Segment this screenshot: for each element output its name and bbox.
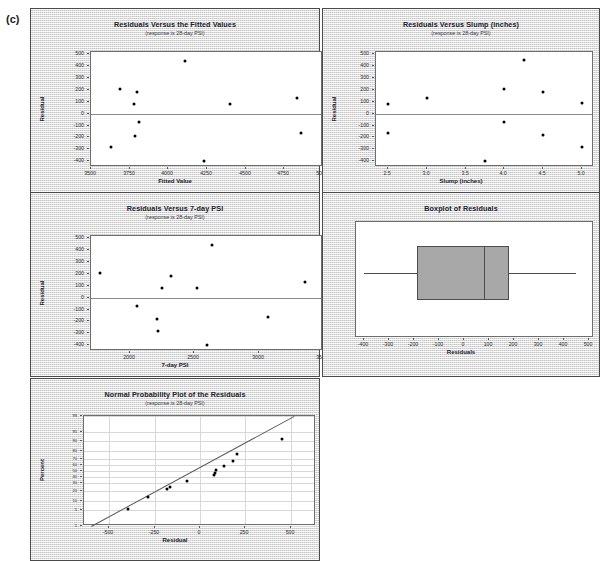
gridline-horizontal [84, 441, 314, 442]
x-axis-tick-label: 3.0 [422, 170, 429, 176]
y-axis-tick [80, 431, 82, 432]
x-axis-tick-label: 4.0 [499, 170, 506, 176]
x-axis-tick-label: -250 [149, 529, 159, 535]
data-point [581, 145, 584, 148]
x-axis-title: Fitted Value [35, 178, 315, 184]
chart-title-psi7: Residuals Versus 7-day PSI [35, 204, 315, 213]
y-axis-tick-label: -300 [359, 145, 369, 151]
x-axis-tick [387, 167, 388, 169]
x-axis-tick-label: 4.5 [538, 170, 545, 176]
data-point [303, 281, 306, 284]
y-axis-tick [372, 160, 374, 161]
plot-area-fitted [90, 51, 322, 166]
data-point [211, 243, 214, 246]
y-axis-tick [80, 525, 82, 526]
data-point [229, 102, 232, 105]
data-point [300, 131, 303, 134]
y-axis-tick [87, 136, 89, 137]
y-axis-tick [87, 237, 89, 238]
y-axis-tick-label: 30 [72, 480, 77, 485]
chart-subtitle-normal: (response is 28-day PSI) [35, 400, 315, 406]
y-axis-tick-label: -100 [74, 122, 84, 128]
x-axis-title: Residuals [327, 349, 595, 355]
y-axis-tick [87, 113, 89, 114]
data-point [425, 97, 428, 100]
y-axis-tick [87, 320, 89, 321]
x-axis-tick-label: 4250 [200, 170, 212, 176]
x-axis-tick [363, 338, 364, 340]
x-axis-title: 7-day PSI [35, 362, 315, 368]
y-axis-tick [87, 125, 89, 126]
chart-subtitle-slump: (response is 28-day PSI) [327, 30, 595, 36]
data-point [222, 464, 225, 467]
gridline-horizontal [84, 471, 314, 472]
x-axis-tick-label: 4000 [161, 170, 173, 176]
data-point [202, 159, 205, 162]
y-axis-tick-label: 400 [360, 62, 369, 68]
x-axis-tick-label: 300 [534, 341, 543, 347]
panel-inner-slump: Residuals Versus Slump (inches)(response… [327, 13, 595, 188]
x-axis-tick [154, 526, 155, 528]
zero-reference-line [91, 298, 321, 299]
y-axis-tick-label: 80 [72, 448, 77, 453]
x-axis-tick [258, 351, 259, 353]
x-axis-tick-label: 0 [462, 341, 465, 347]
x-axis-tick [413, 338, 414, 340]
y-axis-tick-label: 200 [360, 86, 369, 92]
y-axis-tick [87, 160, 89, 161]
chart-subtitle-psi7: (response is 28-day PSI) [35, 214, 315, 220]
data-point [137, 120, 140, 123]
x-axis-title: Slump (inches) [327, 178, 595, 184]
data-point [266, 315, 269, 318]
x-axis-title: Residual [35, 537, 315, 543]
x-axis-tick [588, 338, 589, 340]
y-axis-tick-label: -200 [74, 317, 84, 323]
x-axis-tick [206, 167, 207, 169]
panel-residuals-vs-slump: Residuals Versus Slump (inches)(response… [322, 8, 600, 193]
data-point [236, 452, 239, 455]
plot-area-boxplot [355, 221, 593, 337]
boxplot-median-line [484, 246, 485, 300]
data-point [295, 96, 298, 99]
x-axis-tick-label: -100 [433, 341, 443, 347]
y-axis-tick [80, 440, 82, 441]
y-axis-tick-label: 10 [72, 498, 77, 503]
x-axis-tick [388, 338, 389, 340]
y-axis-tick [87, 53, 89, 54]
y-axis-tick-label: 60 [72, 462, 77, 467]
y-axis-tick [87, 309, 89, 310]
x-axis-tick-label: -200 [408, 341, 418, 347]
panel-inner-fitted: Residuals Versus the Fitted Values(respo… [35, 13, 315, 188]
x-axis-tick [283, 167, 284, 169]
data-point [136, 91, 139, 94]
y-axis-tick-label: 500 [75, 234, 84, 240]
y-axis-title: Residual [39, 96, 45, 121]
data-point [386, 103, 389, 106]
y-axis-tick [87, 297, 89, 298]
data-point [195, 287, 198, 290]
x-axis-tick-label: 100 [484, 341, 493, 347]
x-axis-tick-label: 3.5 [461, 170, 468, 176]
y-axis-tick-label: -100 [74, 306, 84, 312]
y-axis-tick-label: -200 [359, 133, 369, 139]
x-axis-tick [513, 338, 514, 340]
data-point [542, 90, 545, 93]
y-axis-tick [372, 148, 374, 149]
y-axis-tick [80, 482, 82, 483]
gridline-horizontal [84, 465, 314, 466]
y-axis-tick [87, 148, 89, 149]
x-axis-tick [90, 167, 91, 169]
x-axis-tick [581, 167, 582, 169]
y-axis-tick [372, 113, 374, 114]
y-axis-tick [80, 500, 82, 501]
zero-reference-line [91, 114, 321, 115]
y-axis-tick-label: 200 [75, 86, 84, 92]
y-axis-tick-label: -200 [74, 133, 84, 139]
x-axis-tick-label: -300 [383, 341, 393, 347]
gridline-horizontal [84, 451, 314, 452]
x-axis-tick-label: 3750 [123, 170, 135, 176]
y-axis-tick-label: 100 [75, 282, 84, 288]
data-point [99, 272, 102, 275]
y-axis-tick-label: 300 [75, 258, 84, 264]
y-axis-tick [87, 261, 89, 262]
